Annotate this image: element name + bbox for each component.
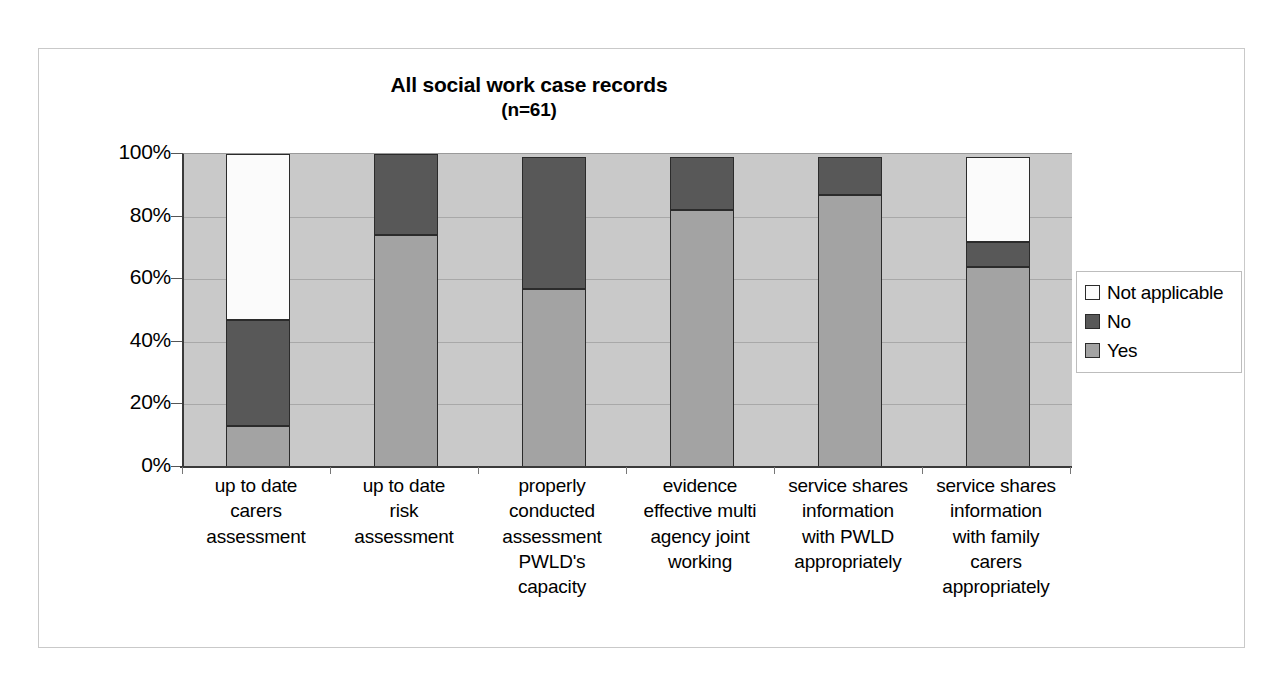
stacked-bar[interactable] (966, 154, 1030, 467)
bar-segment-not-applicable[interactable] (226, 154, 290, 320)
x-axis-label-line: conducted (478, 498, 626, 523)
x-axis-label-line: with family (922, 524, 1070, 549)
x-axis-label-line: carers (182, 498, 330, 523)
y-axis-tick-label: 60% (79, 265, 171, 289)
y-axis-tick (171, 153, 182, 154)
bar-segment-no[interactable] (226, 320, 290, 426)
stacked-bar[interactable] (522, 154, 586, 467)
x-axis-label-line: information (774, 498, 922, 523)
bar-slot (924, 154, 1072, 467)
y-axis-tick-label: 40% (79, 328, 171, 352)
y-axis: 100%80%60%40%20%0% (59, 153, 171, 466)
x-axis-label-line: assessment (182, 524, 330, 549)
stacked-bar[interactable] (374, 154, 438, 467)
x-axis-label-line: assessment (478, 524, 626, 549)
legend-swatch-icon (1085, 343, 1100, 358)
x-axis-tick (1070, 467, 1071, 474)
bar-segment-no[interactable] (522, 157, 586, 288)
y-axis-tick (171, 216, 182, 217)
stacked-bar[interactable] (670, 154, 734, 467)
y-axis-tick (171, 341, 182, 342)
bar-segment-yes[interactable] (522, 289, 586, 467)
x-axis-label-line: up to date (330, 473, 478, 498)
page-title: All social work case records (39, 71, 1019, 98)
bar-slot (184, 154, 332, 467)
x-axis-category-label: properlyconductedassessmentPWLD'scapacit… (478, 473, 626, 599)
x-axis-label-line: PWLD's (478, 549, 626, 574)
bar-segment-no[interactable] (966, 242, 1030, 267)
x-axis-label-line: effective multi (626, 498, 774, 523)
x-axis-label-line: agency joint (626, 524, 774, 549)
legend-item[interactable]: Not applicable (1085, 278, 1233, 307)
x-axis-category-label: up to datecarersassessment (182, 473, 330, 549)
bar-slot (332, 154, 480, 467)
bar-slot (480, 154, 628, 467)
stacked-bar[interactable] (226, 154, 290, 467)
x-axis-label-line: carers (922, 549, 1070, 574)
x-axis-category-label: service sharesinformationwith PWLDapprop… (774, 473, 922, 574)
chart-frame: All social work case records (n=61) 100%… (38, 48, 1245, 648)
bar-segment-no[interactable] (670, 157, 734, 210)
chart-subtitle: (n=61) (39, 98, 1019, 123)
title-block: All social work case records (n=61) (39, 71, 1019, 123)
x-axis-label-line: capacity (478, 574, 626, 599)
x-axis-labels: up to datecarersassessmentup to daterisk… (182, 473, 1070, 643)
y-axis-tick (171, 403, 182, 404)
bar-segment-yes[interactable] (966, 267, 1030, 467)
bar-segment-yes[interactable] (818, 195, 882, 467)
legend-item[interactable]: No (1085, 307, 1233, 336)
bar-segment-yes[interactable] (374, 235, 438, 467)
x-axis-label-line: working (626, 549, 774, 574)
bar-segment-yes[interactable] (226, 426, 290, 467)
x-axis-label-line: risk (330, 498, 478, 523)
legend-item[interactable]: Yes (1085, 336, 1233, 365)
x-axis-label-line: properly (478, 473, 626, 498)
x-axis-label-line: service shares (922, 473, 1070, 498)
legend-label: No (1107, 311, 1131, 333)
y-axis-tick-label: 0% (79, 453, 171, 477)
y-axis-tick-label: 100% (79, 140, 171, 164)
bar-segment-yes[interactable] (670, 210, 734, 467)
x-axis-category-label: up to dateriskassessment (330, 473, 478, 549)
bar-slot (628, 154, 776, 467)
legend-swatch-icon (1085, 314, 1100, 329)
x-axis-label-line: with PWLD (774, 524, 922, 549)
x-axis-label-line: assessment (330, 524, 478, 549)
bar-segment-no[interactable] (818, 157, 882, 195)
x-axis-label-line: appropriately (774, 549, 922, 574)
y-axis-tick-label: 80% (79, 203, 171, 227)
x-axis-label-line: appropriately (922, 574, 1070, 599)
legend-label: Yes (1107, 340, 1137, 362)
y-axis-tick (171, 278, 182, 279)
chart-legend: Not applicableNoYes (1076, 271, 1242, 373)
x-axis-label-line: information (922, 498, 1070, 523)
x-axis-label-line: up to date (182, 473, 330, 498)
legend-swatch-icon (1085, 285, 1100, 300)
x-axis-label-line: evidence (626, 473, 774, 498)
plot-area (182, 153, 1072, 467)
y-axis-tick-label: 20% (79, 390, 171, 414)
x-axis-label-line: service shares (774, 473, 922, 498)
bar-segment-not-applicable[interactable] (966, 157, 1030, 242)
stacked-bar[interactable] (818, 154, 882, 467)
legend-label: Not applicable (1107, 282, 1223, 304)
bar-slot (776, 154, 924, 467)
bar-segment-no[interactable] (374, 154, 438, 235)
x-axis-tick (182, 467, 183, 474)
x-axis-category-label: evidenceeffective multiagency jointworki… (626, 473, 774, 574)
x-axis-category-label: service sharesinformationwith familycare… (922, 473, 1070, 599)
